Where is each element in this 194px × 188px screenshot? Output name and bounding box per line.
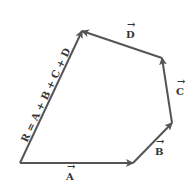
svg-text:→: → <box>177 76 186 87</box>
svg-text:R = A + B + C + D: R = A + B + C + D <box>19 46 73 144</box>
svg-text:B: B <box>155 146 163 157</box>
vector-d <box>82 31 162 58</box>
svg-text:A: A <box>65 171 74 182</box>
label-d: D → <box>126 19 136 40</box>
svg-text:→: → <box>127 19 136 30</box>
label-b: B → <box>155 136 165 157</box>
label-r-equation: R = A + B + C + D <box>19 46 73 144</box>
vector-r <box>20 31 82 163</box>
svg-text:D: D <box>126 29 135 40</box>
vector-diagram: A → B → C → D → R = A + B + C + D <box>0 0 194 188</box>
label-a: A → <box>65 161 76 182</box>
label-c: C → <box>176 76 186 97</box>
svg-text:→: → <box>156 136 165 147</box>
svg-text:C: C <box>176 86 184 97</box>
vector-c <box>162 58 172 123</box>
svg-text:→: → <box>67 161 76 172</box>
vector-b <box>133 123 172 163</box>
